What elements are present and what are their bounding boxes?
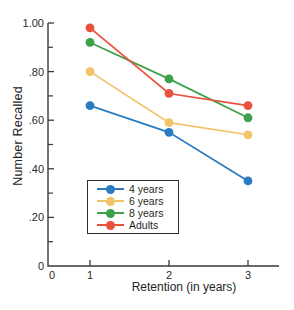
y-tick-label: 1.00 (23, 17, 44, 29)
legend-label-8-years: 8 years (129, 208, 163, 219)
data-point-adults-x1 (86, 23, 95, 32)
legend-item-adults: Adults (97, 219, 178, 231)
y-tick-label: .40 (29, 163, 44, 175)
y-tick-label: .80 (29, 66, 44, 78)
data-point-4-years-x1 (86, 101, 95, 110)
line-dot-marker-icon (97, 221, 124, 230)
legend-label-adults: Adults (129, 220, 158, 231)
legend-item-4-years: 4 years (97, 183, 178, 195)
data-point-adults-x3 (244, 101, 253, 110)
y-axis-title: Number Recalled (11, 86, 25, 186)
y-tick-label: .20 (29, 211, 44, 223)
legend: 4 years 6 years 8 years Adults (87, 180, 179, 234)
series-line-4-years (90, 106, 248, 181)
line-chart-canvas: 0.20.40.60.801.000123 (0, 0, 294, 310)
data-point-6-years-x1 (86, 67, 95, 76)
line-dot-marker-icon (97, 209, 124, 218)
data-point-8-years-x3 (244, 113, 253, 122)
x-tick-label: 0 (49, 269, 55, 281)
data-point-8-years-x2 (165, 74, 174, 83)
x-tick-label: 1 (87, 269, 93, 281)
legend-label-4-years: 4 years (129, 184, 163, 195)
y-tick-label: 0 (38, 260, 44, 272)
legend-label-6-years: 6 years (129, 196, 163, 207)
line-dot-marker-icon (97, 197, 124, 206)
data-point-4-years-x2 (165, 128, 174, 137)
y-tick-label: .60 (29, 114, 44, 126)
data-point-6-years-x3 (244, 130, 253, 139)
legend-item-8-years: 8 years (97, 207, 178, 219)
data-point-8-years-x1 (86, 38, 95, 47)
retention-line-chart-figure: 0.20.40.60.801.000123 Number Recalled Re… (0, 0, 294, 310)
line-dot-marker-icon (97, 185, 124, 194)
data-point-4-years-x3 (244, 177, 253, 186)
legend-item-6-years: 6 years (97, 195, 178, 207)
data-point-6-years-x2 (165, 118, 174, 127)
x-axis-title: Retention (in years) (104, 280, 264, 294)
data-point-adults-x2 (165, 89, 174, 98)
